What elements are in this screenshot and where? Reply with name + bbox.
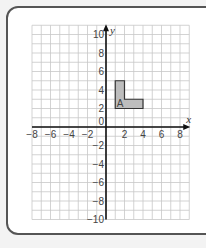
- x-tick-label: 2: [122, 129, 128, 140]
- y-tick-label: −8: [93, 196, 105, 207]
- y-axis-label: y: [109, 24, 115, 36]
- y-tick-label: −2: [93, 140, 105, 151]
- x-tick-label: −6: [45, 129, 57, 140]
- x-tick-label: −8: [26, 129, 38, 140]
- x-tick-label: 4: [140, 129, 146, 140]
- x-tick-label: 6: [159, 129, 165, 140]
- y-tick-label: 10: [93, 29, 105, 40]
- x-tick-label: −4: [63, 129, 75, 140]
- y-tick-label: 4: [98, 85, 104, 96]
- x-tick-label: 8: [177, 129, 183, 140]
- x-tick-label: −2: [82, 129, 94, 140]
- y-tick-label: 2: [98, 103, 104, 114]
- x-axis-label: x: [185, 113, 191, 125]
- y-tick-label: −4: [93, 159, 105, 170]
- shape-label: A: [117, 98, 124, 109]
- y-tick-label: 8: [98, 48, 104, 59]
- y-tick-label: 6: [98, 66, 104, 77]
- y-tick-label: −10: [87, 214, 104, 225]
- coordinate-plane: Axy−8−6−4−22468108642−2−4−6−8−100: [0, 0, 206, 248]
- y-tick-label: −6: [93, 177, 105, 188]
- origin-label: 0: [98, 116, 104, 127]
